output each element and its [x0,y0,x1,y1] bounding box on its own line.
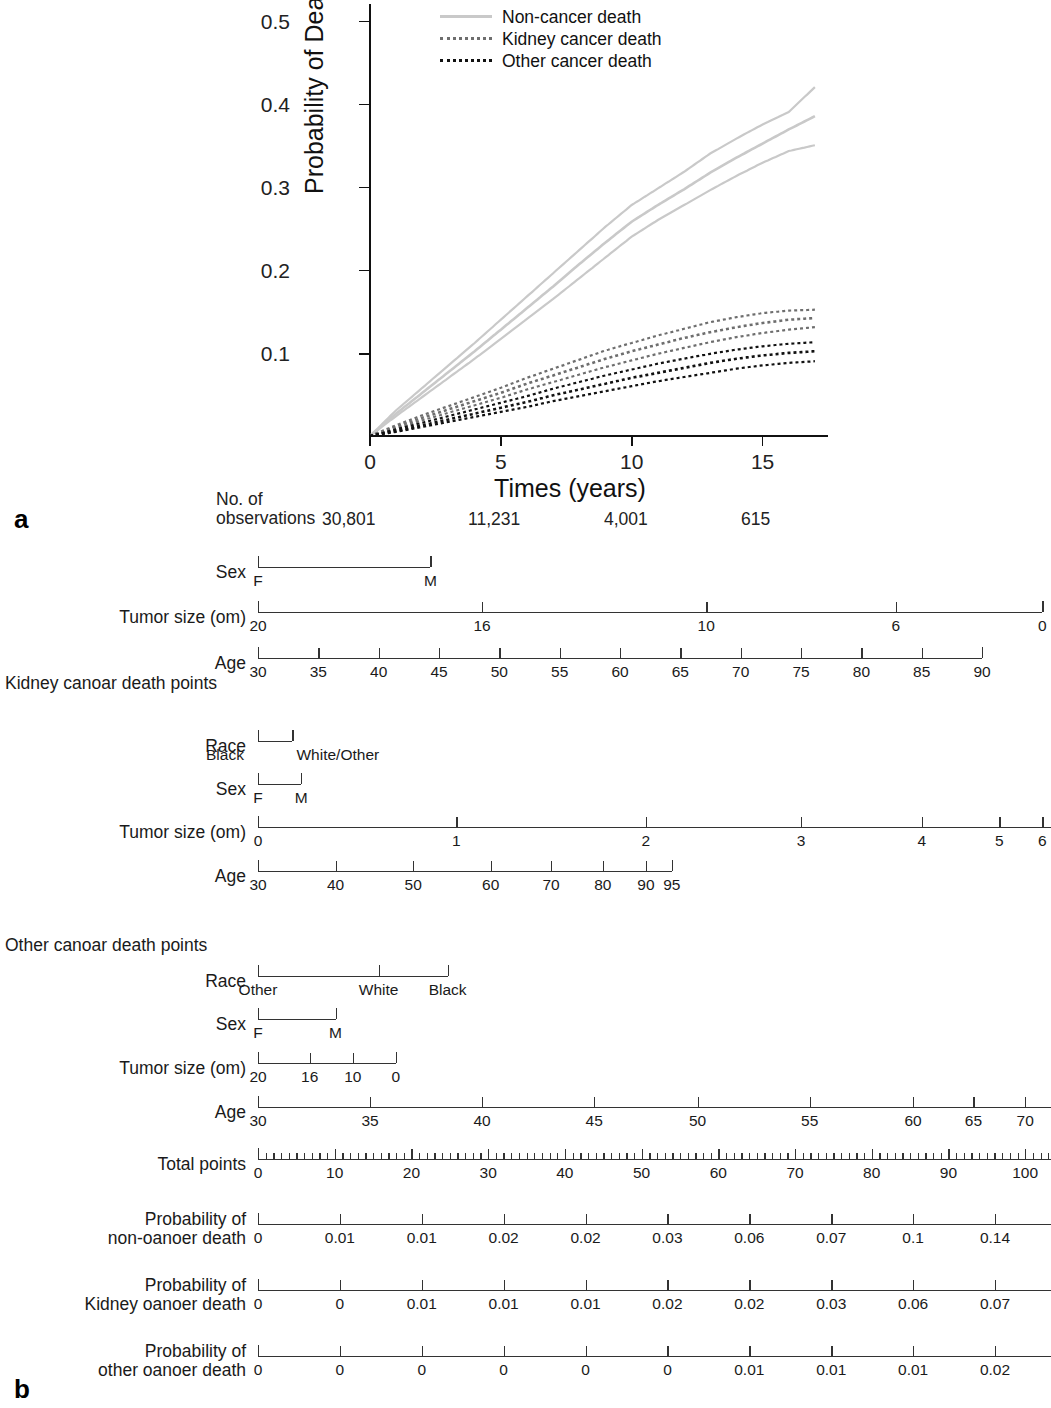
tick-label: 0.01 [407,1295,437,1313]
tick-mark [336,1008,337,1019]
nomogram-row-total-points[interactable]: Total points01020304050607080901001101 [258,1147,1051,1187]
tick-label: 0 [254,832,263,850]
axis-line [258,1356,1051,1357]
tick-label: 0 [417,1361,426,1379]
minor-tick [787,1153,788,1159]
tick-label: 0 [392,1068,401,1086]
minor-tick [634,1153,635,1159]
nomogram-row-age[interactable]: Age3035404550556065708090 [258,1095,1051,1135]
tick-label: 55 [551,663,568,681]
tick-mark [973,1097,974,1107]
minor-tick [381,1153,382,1159]
nomogram-row-age[interactable]: Age3040506070809095 [258,859,672,899]
tick-label: 85 [913,663,930,681]
nomogram-row-age[interactable]: Age30354045505560657075808590 [258,646,982,686]
tick-label: 0.1 [902,1229,924,1247]
tick-mark [310,1053,311,1063]
row-label: Tumor size (om) [119,608,246,627]
tick-label: Black [206,746,244,764]
tick-mark [379,648,380,658]
row-label: Probability ofother oanoer death [98,1342,246,1380]
tick-label: 60 [611,663,628,681]
minor-tick [534,1153,535,1159]
nomogram-row-prob-non-cancer-death[interactable]: Probability ofnon-oanoer death00.010.010… [258,1212,1051,1252]
tick-mark [646,817,647,827]
x-tick [762,436,764,446]
tick-mark [258,1213,259,1224]
minor-tick [373,1153,374,1159]
minor-tick [503,1153,504,1159]
minor-tick [1010,1153,1011,1159]
minor-tick [496,1153,497,1159]
minor-tick [358,1153,359,1159]
axis-line [258,741,292,742]
tick-label: 0.03 [652,1229,682,1247]
tick-label: 50 [689,1112,706,1130]
minor-tick [649,1153,650,1159]
x-tick-label: 10 [620,450,643,474]
minor-tick [695,1153,696,1159]
tick-label: 90 [637,876,654,894]
minor-tick [994,1153,995,1159]
tick-mark [551,861,552,871]
minor-tick [895,1153,896,1159]
minor-tick [457,1153,458,1159]
tick-label: 0.03 [816,1295,846,1313]
tick-mark [430,556,431,567]
tick-mark [872,1149,873,1159]
nomogram-row-tumor-size[interactable]: Tumor size (om)2016100 [258,1051,396,1091]
minor-tick [580,1153,581,1159]
legend-label: Kidney cancer death [502,29,662,50]
minor-tick [780,1153,781,1159]
tick-mark [340,1280,341,1290]
tick-mark [504,1214,505,1224]
tick-label: 0.02 [734,1295,764,1313]
tick-mark [258,1008,259,1019]
tick-label: 0.01 [898,1361,928,1379]
tick-mark [411,1149,412,1159]
tick-label: 20 [403,1164,420,1182]
tick-mark [741,648,742,658]
tick-mark [680,648,681,658]
minor-tick [342,1153,343,1159]
tick-mark [456,817,457,827]
tick-label: 0.02 [980,1361,1010,1379]
nomogram-row-prob-kidney-cancer-death[interactable]: Probability ofKidney oanoer death000.010… [258,1278,1051,1318]
nomogram-row-tumor-size[interactable]: Tumor size (om)20161060 [258,600,1042,640]
axis-line [258,658,982,659]
minor-tick [550,1153,551,1159]
tick-mark [258,1052,259,1063]
minor-tick [542,1153,543,1159]
tick-label: 70 [1017,1112,1034,1130]
tick-label: 0.02 [652,1295,682,1313]
nomogram-row-sex[interactable]: SexFM [258,555,430,595]
nomogram-row-race[interactable]: RaceBlackWhite/Other [258,729,292,769]
tick-label: 70 [542,876,559,894]
tick-label: White [359,981,399,999]
axis-line [258,1224,1051,1225]
tick-label: 65 [672,663,689,681]
tick-mark [995,1346,996,1356]
row-label: Sex [216,1015,246,1034]
nomogram-row-sex[interactable]: SexFM [258,772,301,812]
tick-label: 30 [249,876,266,894]
x-tick-label: 5 [495,450,507,474]
tick-mark [667,1346,668,1356]
tick-mark [586,1346,587,1356]
nomogram-row-tumor-size[interactable]: Tumor size (om)0123456781012141618 [258,815,1051,855]
minor-tick [879,1153,880,1159]
tick-label: 30 [249,1112,266,1130]
tick-mark [594,1097,595,1107]
tick-label: 60 [482,876,499,894]
nomogram-row-sex[interactable]: SexFM [258,1007,336,1047]
nomogram-row-prob-other-cancer-death[interactable]: Probability ofother oanoer death0000000.… [258,1344,1051,1384]
minor-tick [734,1153,735,1159]
tick-label: 20 [249,617,266,635]
nomogram-row-race[interactable]: RaceOtherWhiteBlack [258,964,448,1004]
minor-tick [588,1153,589,1159]
tick-mark [706,602,707,612]
minor-tick [1048,1153,1049,1159]
tick-mark [620,648,621,658]
tick-label: 0.02 [489,1229,519,1247]
minor-tick [611,1153,612,1159]
